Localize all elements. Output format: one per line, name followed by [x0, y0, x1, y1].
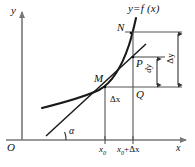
point-label-N: N — [117, 22, 124, 33]
point-dot-N — [130, 32, 133, 35]
tangent-line-group — [46, 44, 146, 136]
point-label-M: M — [94, 73, 103, 84]
tick-label-x0-plus-dx-rest: +Δx — [124, 144, 139, 154]
point-label-P: P — [136, 58, 143, 69]
angle-alpha-label: α — [69, 126, 74, 136]
dy-label: dy — [144, 64, 153, 73]
tick-label-x0-sub: 0 — [103, 150, 106, 156]
delta-y-label: Δy — [166, 53, 175, 63]
tick-label-x0-plus-dx: x0+Δx — [117, 145, 139, 156]
point-dot-P — [132, 56, 135, 59]
guide-lines-group — [105, 32, 182, 140]
point-label-Q: Q — [136, 89, 144, 100]
delta-x-label: Δx — [110, 95, 120, 104]
function-label: y=f (x) — [128, 3, 160, 14]
origin-label: O — [7, 142, 15, 153]
angle-alpha-arc — [65, 132, 66, 140]
figure-root: y x O y=f (x) M N P Q α Δx dy Δy x0 x0+Δ… — [0, 0, 195, 167]
tangent-line — [46, 44, 146, 136]
x-axis-label: x — [176, 143, 180, 153]
angle-alpha-group — [65, 132, 66, 140]
y-axis-label: y — [11, 5, 16, 16]
tick-label-x0: x0 — [99, 145, 106, 156]
point-dot-M — [104, 86, 107, 89]
